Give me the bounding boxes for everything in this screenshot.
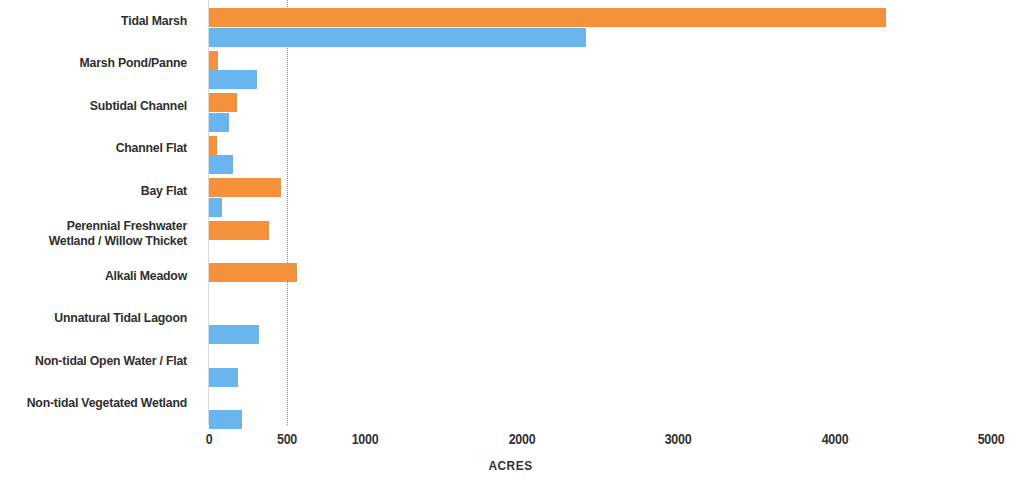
x-tick-0: 0	[206, 431, 213, 447]
category-label-non-tidal-open-water-flat: Non-tidal Open Water / Flat	[13, 340, 187, 383]
category-label-subtidal-channel: Subtidal Channel	[13, 85, 187, 128]
acres-bar-chart: Tidal Marsh Marsh Pond/Panne Subtidal Ch…	[0, 0, 1021, 487]
bar-orange-series-3	[209, 136, 217, 155]
category-label-channel-flat: Channel Flat	[13, 128, 187, 171]
x-tick-2000: 2000	[508, 431, 535, 447]
category-axis-labels: Tidal Marsh Marsh Pond/Panne Subtidal Ch…	[0, 0, 187, 425]
plot-area	[209, 0, 991, 425]
bar-orange-series-0	[209, 8, 886, 27]
x-tick-5000: 5000	[978, 431, 1005, 447]
bar-orange-series-6	[209, 263, 297, 282]
bar-orange-series-1	[209, 51, 218, 70]
category-label-marsh-pond-panne: Marsh Pond/Panne	[13, 43, 187, 86]
x-axis-title: ACRES	[61, 458, 959, 473]
gridline-500	[287, 0, 288, 425]
bar-blue-series-8	[209, 368, 238, 387]
x-tick-3000: 3000	[665, 431, 692, 447]
category-label-perennial-freshwater-wetland: Perennial Freshwater Wetland / Willow Th…	[13, 213, 187, 256]
bar-blue-series-3	[209, 155, 233, 174]
bar-orange-series-5	[209, 221, 269, 240]
category-label-bay-flat: Bay Flat	[13, 170, 187, 213]
bar-orange-series-4	[209, 178, 281, 197]
bar-blue-series-2	[209, 113, 229, 132]
category-label-non-tidal-vegetated-wetland: Non-tidal Vegetated Wetland	[13, 383, 187, 426]
bar-blue-series-7	[209, 325, 259, 344]
category-label-alkali-meadow: Alkali Meadow	[13, 255, 187, 298]
category-label-tidal-marsh: Tidal Marsh	[13, 0, 187, 43]
bar-blue-series-4	[209, 198, 222, 217]
x-tick-1000: 1000	[352, 431, 379, 447]
bar-blue-series-0	[209, 28, 586, 47]
category-label-unnatural-tidal-lagoon: Unnatural Tidal Lagoon	[13, 298, 187, 341]
bar-orange-series-2	[209, 93, 237, 112]
x-tick-500: 500	[277, 431, 297, 447]
x-tick-4000: 4000	[821, 431, 848, 447]
x-axis-ticks: 050010002000300040005000	[209, 425, 991, 455]
bar-blue-series-1	[209, 70, 257, 89]
